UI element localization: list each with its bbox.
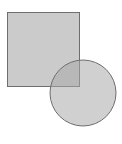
circle-shape xyxy=(50,60,116,126)
overlap-diagram xyxy=(0,0,122,144)
